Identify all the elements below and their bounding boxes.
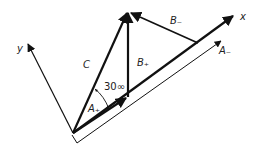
y-axis-label: y xyxy=(16,43,24,54)
c-label: C xyxy=(83,59,90,70)
x-axis-arrow xyxy=(73,16,233,133)
vector-diagram: y x C 30∞ A₊ B₊ B₋ A₋ xyxy=(0,0,262,149)
b-plus-label: B₊ xyxy=(137,57,149,68)
a-plus-label: A₊ xyxy=(87,103,100,114)
a-minus-label: A₋ xyxy=(218,45,231,56)
dimension-tick xyxy=(72,135,77,143)
angle-label: 30∞ xyxy=(104,81,125,92)
vector-b-minus xyxy=(131,13,198,43)
x-axis-label: x xyxy=(239,11,246,22)
b-minus-label: B₋ xyxy=(170,15,182,26)
y-axis-arrow xyxy=(28,44,73,133)
